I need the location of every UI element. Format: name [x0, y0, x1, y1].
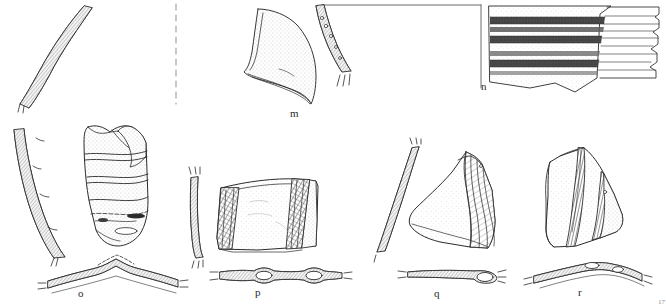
specimen-label-q: q — [434, 287, 440, 299]
specimen-label-r: r — [578, 286, 582, 298]
specimen-n — [489, 6, 659, 92]
specimen-label-m: m — [290, 107, 299, 119]
specimen-profile-left-top — [18, 6, 92, 113]
specimen-label-p: p — [255, 286, 261, 298]
specimen-o — [14, 126, 188, 293]
plate-drawing — [0, 0, 666, 306]
specimen-label-o: o — [78, 287, 84, 299]
specimen-p — [189, 167, 352, 283]
specimen-q — [374, 138, 506, 283]
specimen-m — [244, 5, 351, 104]
plate-corner-mark: 17 — [658, 298, 665, 306]
specimen-r — [524, 148, 652, 288]
illustration-plate: m n o p q r 17 — [0, 0, 666, 306]
specimen-label-n: n — [481, 80, 487, 92]
